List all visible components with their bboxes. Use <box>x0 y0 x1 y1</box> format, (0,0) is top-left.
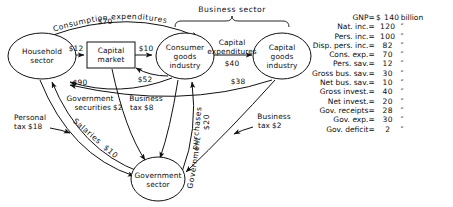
stat-name: Gov. deficit <box>312 126 368 135</box>
stat-unit: ″ <box>401 23 423 32</box>
flow-amount-business-saving-cgi: $52 <box>138 75 152 84</box>
capital-market-label-line2: market <box>98 55 125 64</box>
national-accounts-table: GNP = $ 140 billion Nat. inc. = 120 ″ Pe… <box>312 14 450 135</box>
capital-goods-label-line1: Capital <box>269 43 296 52</box>
flow-path-business-tax-cgi <box>160 80 178 158</box>
node-household-sector[interactable]: Household sector <box>8 33 76 79</box>
government-sector-label-line2: sector <box>146 180 170 189</box>
node-government-sector[interactable]: Government sector <box>131 157 185 201</box>
leader-business-tax-capital <box>234 127 253 134</box>
flow-label-personal-tax-line1: Personal <box>14 113 46 122</box>
consumer-goods-label-line1: Consumer <box>166 43 205 52</box>
stat-unit: ″ <box>401 126 423 135</box>
consumer-goods-label-line3: industry <box>169 61 201 70</box>
flow-label-business-tax-cgi-line2: tax <box>130 103 143 112</box>
flow-amount-government-purchases: $20 <box>202 114 211 130</box>
flow-label-government-securities-line2: securities <box>74 103 111 112</box>
stat-equals: = <box>368 126 374 135</box>
flow-label-business-tax-capital-line2: tax <box>258 121 271 130</box>
stat-unit: ″ <box>401 88 423 97</box>
flow-amount-business-tax-capital: $2 <box>272 121 282 130</box>
flow-amount-capital-market-to-cgi: $10 <box>139 44 154 53</box>
stat-unit: ″ <box>401 116 423 125</box>
stat-unit: billion <box>401 14 423 23</box>
stat-unit: ″ <box>401 79 423 88</box>
stats-table: GNP = $ 140 billion Nat. inc. = 120 ″ Pe… <box>312 14 423 135</box>
stats-table-body: GNP = $ 140 billion Nat. inc. = 120 ″ Pe… <box>312 14 423 135</box>
flow-label-business-tax-cgi-line1: Business <box>129 94 162 103</box>
flow-label-government-securities-line1: Government <box>66 94 113 103</box>
stat-unit: ″ <box>401 70 423 79</box>
flow-amount-government-securities: $2 <box>113 103 123 112</box>
flow-amount-personal-saving: $12 <box>69 44 83 53</box>
flow-amount-personal-tax: $18 <box>28 122 43 131</box>
stat-unit: ″ <box>401 107 423 116</box>
flow-label-personal-tax-line2: tax <box>14 122 27 131</box>
capital-market-label-line1: Capital <box>98 46 125 55</box>
flow-label-salaries-text: Salaries <box>71 117 103 146</box>
consumer-goods-label-line2: goods <box>174 52 197 61</box>
stat-value: 2 <box>375 126 401 135</box>
flow-label-capital-expenditures-line1: Capital <box>219 38 246 47</box>
flow-amount-consumption-expenditures: $70 <box>98 17 113 26</box>
node-capital-goods-industry[interactable]: Capital goods industry <box>253 33 311 79</box>
flow-amount-wages-from-cgi: $90 <box>73 78 88 87</box>
capital-goods-label-line2: goods <box>271 52 294 61</box>
household-sector-label-line2: sector <box>30 56 54 65</box>
stat-unit: ″ <box>401 98 423 107</box>
stat-unit: ″ <box>401 42 423 51</box>
node-capital-market[interactable]: Capital market <box>87 42 135 68</box>
business-sector-brace <box>175 16 289 27</box>
node-consumer-goods-industry[interactable]: Consumer goods industry <box>156 33 214 79</box>
flow-label-business-tax-capital-line1: Business <box>257 112 290 121</box>
capital-goods-label-line3: industry <box>266 61 298 70</box>
stat-unit: ″ <box>401 60 423 69</box>
flow-label-capital-expenditures-line2: expenditures <box>207 47 257 56</box>
government-sector-label-line1: Government <box>134 171 181 180</box>
circular-flow-diagram-page: Business sector Household sector Capital… <box>0 0 453 207</box>
household-sector-label-line1: Household <box>22 47 62 56</box>
flow-amount-business-tax-cgi: $8 <box>144 103 154 112</box>
flow-label-salaries: Salaries <box>71 117 103 146</box>
flow-amount-wages-from-capital-goods: $38 <box>231 77 246 86</box>
table-row: Gov. deficit = 2 ″ <box>312 126 423 135</box>
flow-amount-capital-expenditures: $40 <box>225 59 240 68</box>
stat-unit: ″ <box>401 33 423 42</box>
business-sector-label: Business sector <box>198 5 266 14</box>
stat-unit: ″ <box>401 51 423 60</box>
